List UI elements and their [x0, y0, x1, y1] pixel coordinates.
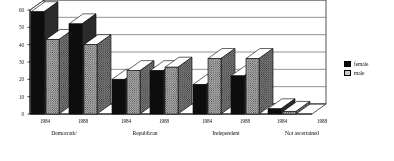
x-tick-democratic-1984: 1984 — [40, 118, 50, 124]
x-tick-notascertained-1984: 1984 — [277, 118, 287, 124]
x-tick-republican-1984: 1984 — [121, 118, 131, 124]
group-label-independent: Independent — [212, 130, 239, 137]
group-label-not-ascertained: Not ascertained — [285, 130, 319, 137]
bar-chart: 60 50 40 30 20 10 0 1984 1988 1984 198 — [0, 0, 394, 161]
legend-label-female: female — [354, 61, 368, 67]
legend-label-male: male — [354, 70, 364, 76]
chart-legend: female male — [344, 60, 392, 79]
x-tick-democratic-1988: 1988 — [78, 118, 88, 124]
x-axis-group-labels: Democratic Republican Independent Not as… — [0, 130, 394, 142]
x-tick-independent-1988: 1988 — [240, 118, 250, 124]
group-label-republican: Republican — [133, 130, 158, 137]
x-tick-republican-1988: 1988 — [159, 118, 169, 124]
x-tick-independent-1984: 1984 — [202, 118, 212, 124]
x-tick-notascertained-1988: 1988 — [317, 118, 327, 124]
legend-swatch-female-icon — [344, 61, 351, 67]
legend-item-female: female — [344, 60, 392, 67]
group-label-democratic: Democratic — [51, 130, 77, 137]
x-axis-year-labels: 1984 1988 1984 1988 1984 1988 1984 1988 — [0, 118, 394, 130]
legend-swatch-male-icon — [344, 70, 351, 76]
legend-item-male: male — [344, 70, 392, 77]
